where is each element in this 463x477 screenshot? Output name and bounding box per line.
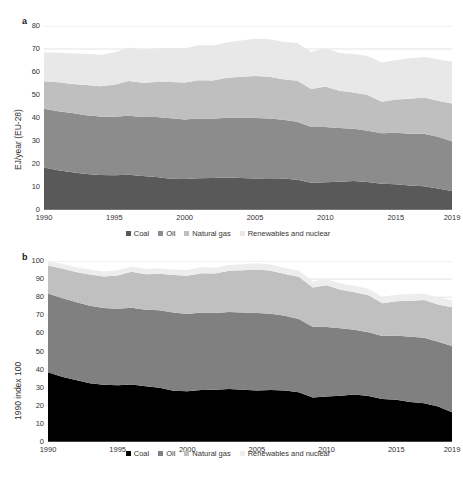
y-tick-label: 80 [18, 22, 40, 30]
legend-item-oil[interactable]: Oil [158, 230, 175, 238]
x-tick-label: 1995 [103, 214, 125, 222]
legend-swatch-icon [240, 231, 245, 236]
legend-label: Coal [134, 450, 149, 458]
legend-item-natural-gas[interactable]: Natural gas [184, 450, 230, 458]
x-tick-label: 2019 [441, 214, 463, 222]
x-tick-label: 2000 [174, 214, 196, 222]
legend-label: Renewables and nuclear [248, 450, 331, 458]
y-tick-label: 90 [22, 275, 44, 283]
y-tick-label: 10 [22, 420, 44, 428]
y-tick-label: 70 [22, 311, 44, 319]
legend-swatch-icon [158, 451, 163, 456]
legend-item-coal[interactable]: Coal [126, 450, 149, 458]
legend-item-renewables-and-nuclear[interactable]: Renewables and nuclear [240, 230, 331, 238]
legend-label: Natural gas [192, 230, 230, 238]
legend-swatch-icon [126, 231, 131, 236]
legend-item-natural-gas[interactable]: Natural gas [184, 230, 230, 238]
legend-item-coal[interactable]: Coal [126, 230, 149, 238]
legend-label: Oil [166, 450, 175, 458]
legend-label: Coal [134, 230, 149, 238]
legend-item-oil[interactable]: Oil [158, 450, 175, 458]
y-tick-label: 80 [22, 293, 44, 301]
y-tick-label: 20 [22, 402, 44, 410]
y-tick-label: 40 [18, 114, 40, 122]
legend-swatch-icon [158, 231, 163, 236]
legend-swatch-icon [184, 451, 189, 456]
y-tick-label: 10 [18, 183, 40, 191]
x-tick-label: 2005 [244, 214, 266, 222]
y-tick-label: 50 [22, 348, 44, 356]
legend-item-renewables-and-nuclear[interactable]: Renewables and nuclear [240, 450, 331, 458]
legend-swatch-icon [126, 451, 131, 456]
legend-label: Natural gas [192, 450, 230, 458]
panel-b-plot-area [48, 261, 452, 442]
y-tick-label: 30 [22, 384, 44, 392]
legend-swatch-icon [240, 451, 245, 456]
x-tick-label: 2010 [314, 214, 336, 222]
y-tick-label: 100 [22, 257, 44, 265]
legend-label: Oil [166, 230, 175, 238]
panel-b-legend: CoalOilNatural gasRenewables and nuclear [0, 450, 456, 458]
y-tick-label: 30 [18, 137, 40, 145]
panel-a-plot-area [44, 26, 452, 210]
y-tick-label: 70 [18, 45, 40, 53]
y-tick-label: 20 [18, 160, 40, 168]
panel-a: a EJ/year (EU-28) 01020304050607080 1990… [0, 0, 456, 240]
b-chart-svg [48, 261, 452, 442]
x-tick-label: 1990 [33, 214, 55, 222]
x-tick-label: 2015 [385, 214, 407, 222]
a-chart-svg [44, 26, 452, 210]
y-tick-label: 60 [18, 68, 40, 76]
y-tick-label: 60 [22, 329, 44, 337]
legend-label: Renewables and nuclear [248, 230, 331, 238]
legend-swatch-icon [184, 231, 189, 236]
y-tick-label: 40 [22, 366, 44, 374]
y-tick-label: 50 [18, 91, 40, 99]
panel-a-legend: CoalOilNatural gasRenewables and nuclear [0, 230, 456, 238]
panel-b: b 1990 index 100 0102030405060708090100 … [0, 240, 456, 477]
